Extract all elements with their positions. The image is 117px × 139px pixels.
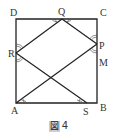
label-c: C (100, 7, 107, 18)
segment-qp (62, 19, 97, 44)
caption-prefix: 図 (49, 121, 60, 132)
label-p: P (99, 40, 105, 51)
label-q: Q (58, 6, 66, 17)
label-r: R (8, 48, 15, 59)
geometry-figure: D Q C P M R A S B 図4 (0, 0, 117, 139)
square-diagram: D Q C P M R A S B (0, 0, 117, 139)
label-s: S (83, 106, 89, 117)
segment-rq (16, 19, 62, 53)
label-d: D (10, 7, 17, 18)
caption-number: 4 (62, 120, 68, 131)
label-b: B (100, 102, 107, 113)
label-a: A (11, 105, 19, 116)
segment-ap (16, 44, 97, 103)
figure-caption: 図4 (0, 120, 117, 132)
label-m: M (99, 57, 108, 68)
